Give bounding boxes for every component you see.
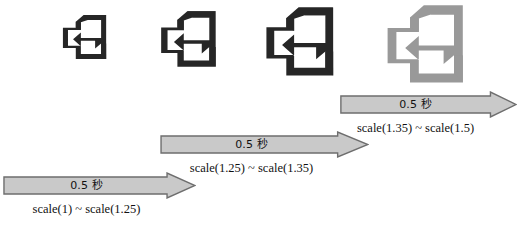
arrow-transition-label: scale(1.25) ~ scale(1.35) — [160, 162, 343, 175]
arrow-shape-icon — [160, 131, 369, 158]
timeline-arrow-2: 0.5 秒 scale(1.25) ~ scale(1.35) — [160, 131, 369, 158]
arrow-shape-icon — [340, 91, 517, 118]
diagram-canvas: 0.5 秒 scale(1) ~ scale(1.25) 0.5 秒 scale… — [0, 0, 520, 228]
exit-icon-step-1 — [62, 14, 108, 60]
exit-icon-step-2 — [160, 10, 218, 68]
timeline-arrow-1: 0.5 秒 scale(1) ~ scale(1.25) — [3, 172, 196, 199]
arrow-transition-label: scale(1.35) ~ scale(1.5) — [340, 122, 491, 135]
timeline-arrow-3: 0.5 秒 scale(1.35) ~ scale(1.5) — [340, 91, 517, 118]
exit-icon-step-3 — [265, 6, 336, 77]
arrow-transition-label: scale(1) ~ scale(1.25) — [3, 203, 170, 216]
exit-icon-step-4 — [386, 4, 466, 84]
arrow-shape-icon — [3, 172, 196, 199]
